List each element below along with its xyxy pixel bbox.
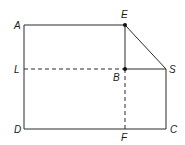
geometry-diagram: A E L B S D F C xyxy=(0,0,185,145)
label-L: L xyxy=(14,64,20,75)
label-S: S xyxy=(169,64,176,75)
label-D: D xyxy=(14,124,21,135)
point-marker-B xyxy=(123,67,127,71)
label-F: F xyxy=(121,132,128,143)
segment-ES xyxy=(125,25,166,69)
label-B: B xyxy=(113,72,120,83)
label-A: A xyxy=(13,20,21,31)
point-marker-E xyxy=(123,23,127,27)
label-C: C xyxy=(170,124,178,135)
label-E: E xyxy=(121,9,128,20)
